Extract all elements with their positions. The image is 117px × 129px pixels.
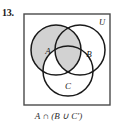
venn-diagram-svg: A B C U — [23, 13, 111, 106]
universal-set-label: U — [99, 17, 106, 27]
venn-diagram-container: A B C U — [23, 13, 111, 106]
problem-number: 13. — [2, 7, 14, 19]
set-label-b: B — [86, 49, 92, 59]
figure-caption: A ∩ (B ∪ C′) — [0, 110, 117, 122]
set-label-a: A — [44, 46, 51, 56]
venn-diagram-figure: 13. — [0, 0, 117, 129]
set-label-c: C — [65, 81, 72, 91]
